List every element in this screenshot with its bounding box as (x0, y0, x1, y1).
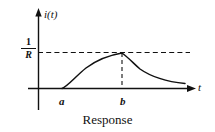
x-axis-arrowhead (187, 85, 196, 92)
response-figure: i(t) t 1 R a b Response (0, 0, 215, 132)
y-tick-label-one-over-r: 1 R (20, 37, 37, 60)
x-axis-label: t (198, 82, 201, 93)
y-axis-label: i(t) (44, 9, 57, 20)
y-axis-arrowhead (35, 8, 41, 17)
fraction-numerator: 1 (20, 37, 37, 47)
fraction-denominator: R (20, 50, 37, 60)
x-tick-label-a: a (59, 96, 65, 107)
response-curve (62, 53, 185, 89)
x-tick-label-b: b (120, 96, 126, 107)
figure-caption: Response (0, 112, 215, 128)
